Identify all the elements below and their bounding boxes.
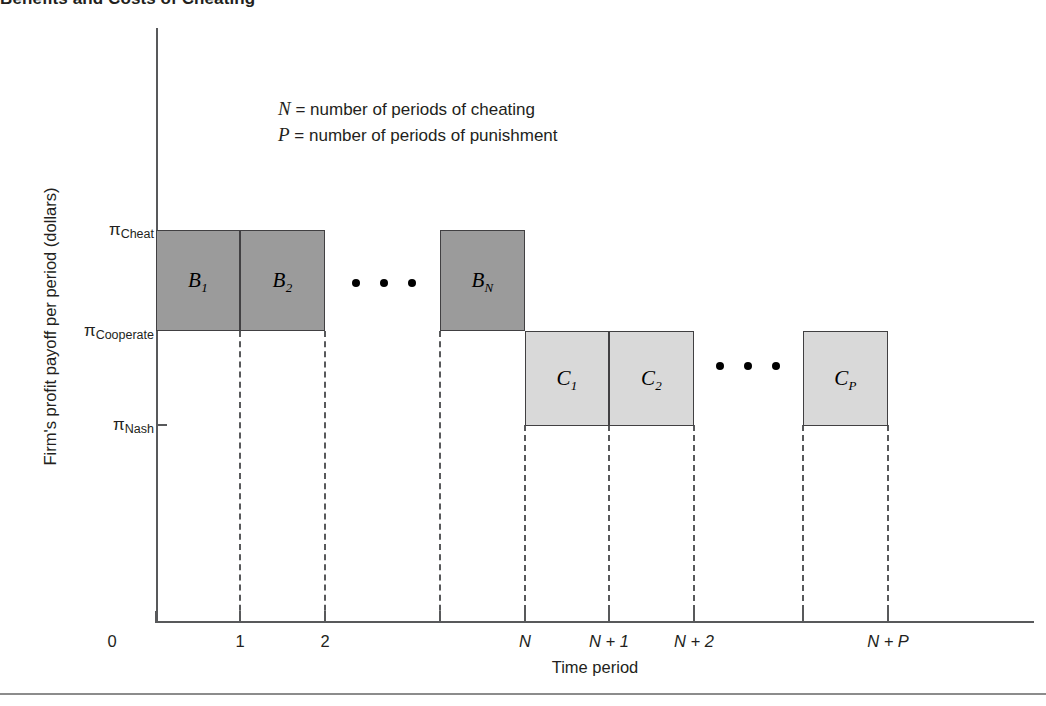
bottom-divider (0, 693, 1046, 695)
y-tick-label-cooperate-wrap: πCooperate (0, 321, 154, 341)
y-tick-label-cheat: πCheat (109, 220, 154, 240)
y-tick-label-cooperate: πCooperate (84, 321, 154, 341)
x-tick-mark-2 (324, 611, 326, 623)
pi-symbol-cheat: π (109, 220, 121, 239)
y-tick-mark-nash (156, 424, 167, 426)
bar-label-c1: C1 (556, 366, 577, 391)
bar-label-cp: CP (834, 366, 857, 391)
x-tick-mark-unlabeled-right (802, 611, 804, 623)
legend: N = number of periods of cheating P = nu… (278, 96, 558, 148)
figure-canvas: Benefits and Costs of Cheating Firm's pr… (0, 0, 1046, 706)
pi-subscript-nash: Nash (125, 422, 154, 436)
x-axis-title: Time period (156, 658, 1034, 677)
dashed-line-p-start (802, 425, 804, 621)
x-tick-mark-0 (155, 611, 157, 623)
y-tick-label-nash: πNash (113, 415, 154, 435)
dashed-line-n (524, 425, 526, 621)
x-tick-mark-1 (239, 611, 241, 623)
y-tick-label-nash-wrap: πNash (0, 415, 154, 435)
bar-b1[interactable]: B1 (156, 230, 240, 331)
bar-c1[interactable]: C1 (525, 331, 609, 426)
dashed-line-n-plus-1 (608, 425, 610, 621)
x-tick-label-n-plus-p: N + P (867, 632, 909, 651)
dashed-line-1 (239, 331, 241, 621)
x-tick-label-n: N (519, 632, 531, 651)
x-tick-label-n-plus-1: N + 1 (589, 632, 629, 651)
bar-label-c2: C2 (641, 366, 662, 391)
x-tick-mark-n-plus-1 (608, 611, 610, 623)
bar-label-b1: B1 (188, 268, 208, 293)
x-tick-mark-unlabeled-left (439, 611, 441, 623)
legend-symbol-n: N (278, 98, 291, 119)
legend-item-n: N = number of periods of cheating (278, 96, 558, 122)
pi-symbol-cooperate: π (84, 321, 96, 340)
x-axis-line (156, 621, 1034, 623)
x-tick-label-1: 1 (235, 632, 244, 651)
x-tick-mark-n-plus-2 (693, 611, 695, 623)
bar-label-bn: BN (471, 268, 493, 293)
y-tick-label-cheat-wrap: πCheat (0, 220, 154, 240)
legend-symbol-p: P (278, 124, 290, 145)
bar-label-b2: B2 (273, 268, 293, 293)
bar-cp[interactable]: CP (803, 331, 888, 426)
bar-bn[interactable]: BN (440, 230, 525, 331)
dashed-line-n-plus-2 (693, 425, 695, 621)
legend-text-n: = number of periods of cheating (295, 100, 535, 119)
dashed-line-n-start (439, 331, 441, 621)
dashed-line-2 (324, 331, 326, 621)
x-tick-mark-n-plus-p (887, 611, 889, 623)
x-tick-mark-n (524, 611, 526, 623)
pi-symbol-nash: π (113, 415, 125, 434)
bar-b2[interactable]: B2 (240, 230, 325, 331)
legend-item-p: P = number of periods of punishment (278, 122, 558, 148)
bar-c2[interactable]: C2 (609, 331, 694, 426)
legend-text-p: = number of periods of punishment (294, 126, 557, 145)
x-tick-label-2: 2 (320, 632, 329, 651)
pi-subscript-cheat: Cheat (121, 227, 154, 241)
figure-title: Benefits and Costs of Cheating (0, 0, 255, 9)
dashed-line-n-plus-p (887, 425, 889, 621)
x-tick-label-0: 0 (107, 632, 116, 651)
x-tick-label-n-plus-2: N + 2 (674, 632, 714, 651)
pi-subscript-cooperate: Cooperate (96, 328, 154, 342)
